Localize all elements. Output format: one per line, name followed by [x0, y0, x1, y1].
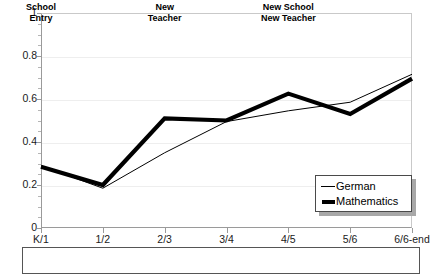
- y-axis-minor-tick: [38, 24, 41, 25]
- phase-annotation-bar: [22, 247, 420, 274]
- phase-cell: SchoolEntry: [26, 2, 56, 24]
- thin-line-swatch-icon: [320, 186, 336, 187]
- y-axis-minor-tick: [38, 153, 41, 154]
- legend: German Mathematics: [315, 175, 412, 212]
- x-axis-label: 1/2: [96, 233, 111, 245]
- legend-entry-mathematics: Mathematics: [320, 194, 407, 209]
- chart-title: [0, 0, 443, 1]
- y-axis-minor-tick: [38, 67, 41, 68]
- x-axis-label: K/1: [33, 233, 49, 245]
- y-axis-label: 0.4: [3, 136, 37, 146]
- y-axis: 10.80.60.40.20: [0, 0, 37, 277]
- phase-cell-line1: New School: [261, 2, 316, 13]
- y-axis-minor-tick: [38, 164, 41, 165]
- y-axis-label: 0.8: [3, 50, 37, 60]
- series-line-mathematics: [41, 79, 412, 185]
- y-axis-minor-tick: [38, 174, 41, 175]
- y-axis-tick: [37, 142, 41, 143]
- y-axis-label: 0: [3, 222, 37, 232]
- y-axis-label: 0.2: [3, 179, 37, 189]
- x-axis-label: 4/5: [281, 233, 296, 245]
- y-axis-minor-tick: [38, 110, 41, 111]
- y-axis-minor-tick: [38, 131, 41, 132]
- y-axis-tick: [37, 13, 41, 14]
- line-chart: 10.80.60.40.20 K/11/22/33/44/55/66/6-end…: [0, 0, 443, 277]
- legend-entry-german: German: [320, 179, 407, 194]
- x-axis-label: 5/6: [343, 233, 358, 245]
- phase-cell-line2: New Teacher: [261, 13, 316, 24]
- y-axis-minor-tick: [38, 45, 41, 46]
- thick-line-swatch-icon: [320, 200, 336, 204]
- y-axis-minor-tick: [38, 217, 41, 218]
- phase-cell-line2: Entry: [26, 13, 56, 24]
- y-axis-minor-tick: [38, 207, 41, 208]
- y-axis-minor-tick: [38, 196, 41, 197]
- x-axis-label: 6/6-end: [394, 233, 430, 245]
- y-axis-minor-tick: [38, 35, 41, 36]
- x-axis-label: 2/3: [157, 233, 172, 245]
- phase-cell: New SchoolNew Teacher: [261, 2, 316, 24]
- x-axis-label: 3/4: [219, 233, 234, 245]
- phase-cell-line2: Teacher: [148, 13, 182, 24]
- y-axis-label: 0.6: [3, 93, 37, 103]
- phase-cell-line1: New: [148, 2, 182, 13]
- y-axis-tick: [37, 185, 41, 186]
- legend-label-german: German: [336, 180, 376, 193]
- y-axis-tick: [37, 56, 41, 57]
- y-axis-tick: [37, 228, 41, 229]
- y-axis-minor-tick: [38, 78, 41, 79]
- phase-cell: NewTeacher: [148, 2, 182, 24]
- y-axis-minor-tick: [38, 121, 41, 122]
- series-line-german: [41, 74, 412, 188]
- y-axis-tick: [37, 99, 41, 100]
- phase-cell-line1: School: [26, 2, 56, 13]
- legend-label-mathematics: Mathematics: [336, 195, 398, 208]
- y-axis-minor-tick: [38, 88, 41, 89]
